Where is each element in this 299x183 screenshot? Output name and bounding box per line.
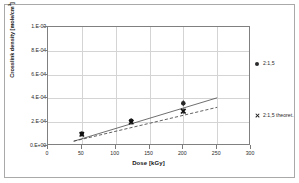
y-tick-label-8e-04: 8.E-04 xyxy=(0,47,46,53)
x-tick-label-300: 300 xyxy=(238,150,262,156)
y-tick-label-2e-04: 2.E-04 xyxy=(0,118,46,124)
x-tick-label-250: 250 xyxy=(204,150,228,156)
y-axis-title-exponent: 3 xyxy=(7,4,12,6)
x-tick-label-50: 50 xyxy=(69,150,93,156)
y-axis-title-base: Crosslink density [mole/cm xyxy=(9,6,15,77)
legend-label-series-1: 2:1,5 theoret. xyxy=(263,112,294,119)
y-tick-label-4e-04: 4.E-04 xyxy=(0,94,46,100)
x-tick-label-150: 150 xyxy=(137,150,161,156)
data-series-layer xyxy=(48,27,251,146)
trendline-series-1 xyxy=(74,107,218,141)
legend-entry-series-0[interactable]: 2:1,5 xyxy=(254,60,275,67)
series-1-points xyxy=(80,109,186,137)
y-axis-title-tail: ] xyxy=(9,2,15,4)
x-tick-label-0: 0 xyxy=(35,150,59,156)
y-tick-label-0e00: 0.E+00 xyxy=(0,142,46,148)
data-point-series-0-2 xyxy=(181,101,186,106)
legend-cross-icon xyxy=(254,112,262,119)
series-0-points xyxy=(80,100,186,136)
x-tick-label-200: 200 xyxy=(170,150,194,156)
chart-figure: Crosslink density [mole/cm3] 1.E-03 8.E-… xyxy=(0,0,299,183)
legend-label-series-0: 2:1,5 xyxy=(263,60,275,67)
trendline-series-0 xyxy=(74,98,218,141)
x-tick-label-100: 100 xyxy=(103,150,127,156)
plot-area xyxy=(47,26,250,145)
legend-entry-series-1[interactable]: 2:1,5 theoret. xyxy=(254,112,294,119)
legend-filled-circle-icon xyxy=(254,60,262,67)
x-axis-title: Dose [kGy] xyxy=(47,160,250,166)
y-tick-label-6e-04: 6.E-04 xyxy=(0,71,46,77)
y-tick-label-1e-03: 1.E-03 xyxy=(0,23,46,29)
